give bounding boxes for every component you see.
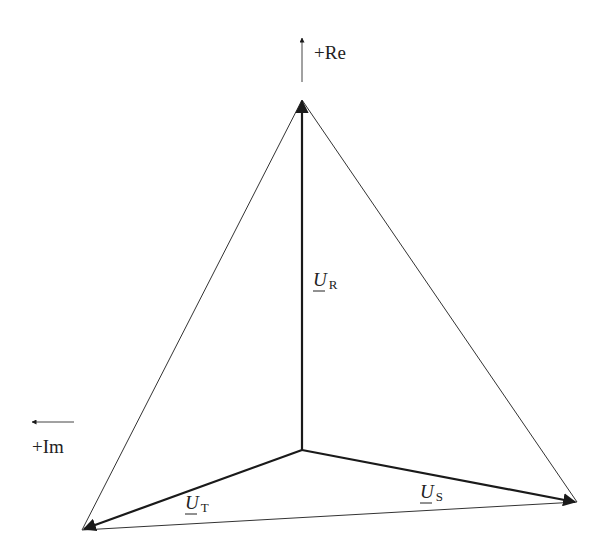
phasor-ut-symbol: U <box>185 492 200 513</box>
phasor-us-label: US <box>420 481 443 504</box>
phasor-us-symbol: U <box>420 481 435 502</box>
phasor-ur-symbol: U <box>313 269 328 290</box>
phasor-diagram: +Re +Im UR US UT <box>0 0 601 552</box>
svg-text:UR: UR <box>313 269 338 292</box>
phasor-us-subscript: S <box>436 489 443 504</box>
phasor-ur-subscript: R <box>329 277 338 292</box>
imag-axis-label: +Im <box>32 436 64 457</box>
phasor-ut-subscript: T <box>201 500 209 515</box>
imag-axis-indicator: +Im <box>32 422 74 457</box>
phasor-ur-label: UR <box>313 269 338 292</box>
real-axis-label: +Re <box>314 42 346 63</box>
real-axis-indicator: +Re <box>302 38 346 82</box>
svg-text:US: US <box>420 481 443 504</box>
svg-text:UT: UT <box>185 492 209 515</box>
line-voltage-triangle <box>82 100 577 530</box>
phasor-ut-label: UT <box>185 492 209 515</box>
